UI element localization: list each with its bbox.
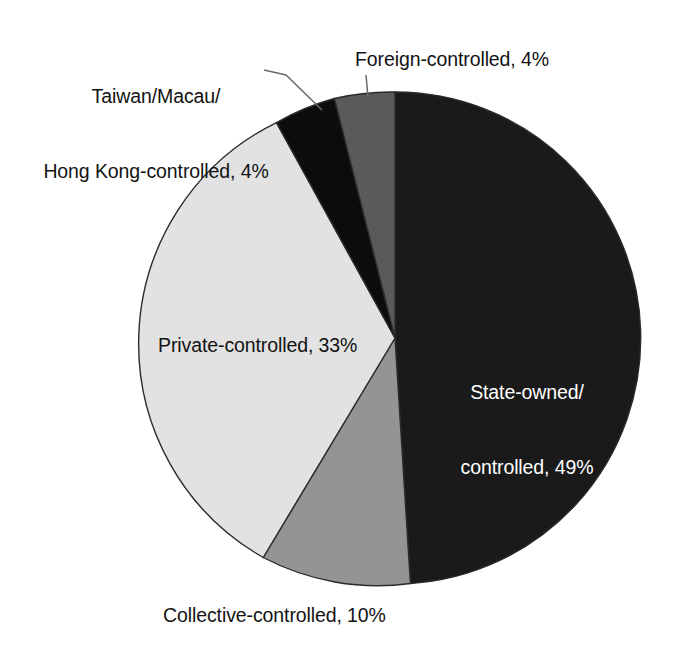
slice-label-state-line1: State-owned/ <box>452 380 602 405</box>
slice-label-state-owned: State-owned/ controlled, 49% <box>452 330 602 530</box>
slice-label-taiwan-line1: Taiwan/Macau/ <box>27 84 285 109</box>
slice-label-state-line2: controlled, 49% <box>452 455 602 480</box>
slice-label-foreign: Foreign-controlled, 4% <box>355 47 549 72</box>
slice-label-taiwan-macau-hongkong: Taiwan/Macau/ Hong Kong-controlled, 4% <box>27 34 285 234</box>
slice-label-taiwan-line2: Hong Kong-controlled, 4% <box>27 159 285 184</box>
pie-chart: Taiwan/Macau/ Hong Kong-controlled, 4% F… <box>0 0 676 652</box>
slice-label-collective: Collective-controlled, 10% <box>163 603 386 628</box>
slice-label-private: Private-controlled, 33% <box>158 333 357 358</box>
